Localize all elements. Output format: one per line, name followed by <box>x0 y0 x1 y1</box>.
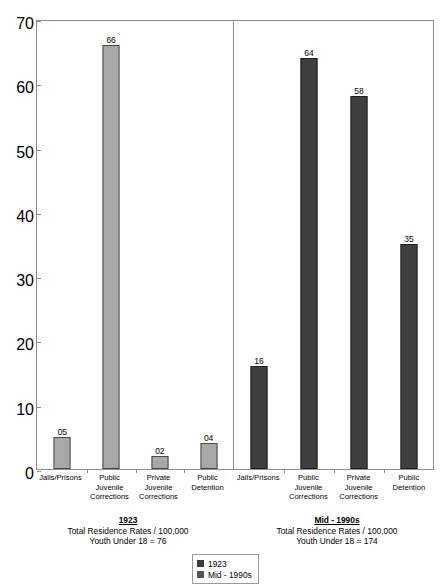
x-axis-category-label: PrivateJuvenileCorrections <box>334 473 384 502</box>
x-axis-category-label-line: Jails/Prisons <box>233 473 283 483</box>
legend-item: Mid - 1990s <box>197 569 252 580</box>
caption-line-2: Youth Under 18 = 174 <box>233 536 441 547</box>
bar-slot: 58 <box>334 21 384 469</box>
x-axis-category-label: Jails/Prisons <box>36 473 85 483</box>
legend: 1923 Mid - 1990s <box>192 554 259 584</box>
caption-line-2: Youth Under 18 = 76 <box>24 536 232 547</box>
bar-value-label: 02 <box>155 446 164 456</box>
legend-swatch-icon <box>197 560 204 567</box>
bar[interactable] <box>103 45 120 469</box>
bar[interactable] <box>200 443 217 469</box>
caption-line-1: Total Residence Rates / 100,000 <box>233 526 441 537</box>
caption-1923: 1923 Total Residence Rates / 100,000 You… <box>24 515 232 547</box>
x-axis-category-label-line: Corrections <box>334 492 384 502</box>
bar-slot: 64 <box>284 21 334 469</box>
bar[interactable] <box>151 456 168 469</box>
x-axis-category-label-line: Jails/Prisons <box>36 473 85 483</box>
caption-line-1: Total Residence Rates / 100,000 <box>24 526 232 537</box>
x-axis-category-label: PublicDetention <box>183 473 232 492</box>
bar-value-label: 66 <box>106 35 115 45</box>
bar[interactable] <box>251 366 268 469</box>
bar-value-label: 05 <box>58 427 67 437</box>
bar-slot: 04 <box>184 21 233 469</box>
x-axis-category-label-line: Public Juvenile <box>85 473 134 492</box>
caption-mid-1990s: Mid - 1990s Total Residence Rates / 100,… <box>233 515 441 547</box>
legend-item: 1923 <box>197 558 252 569</box>
x-axis-category-label-line: Juvenile <box>134 483 183 493</box>
bar-value-label: 35 <box>404 234 413 244</box>
x-axis-labels-1923: Jails/PrisonsPublic JuvenileCorrectionsP… <box>36 473 232 513</box>
bar-slot: 35 <box>384 21 434 469</box>
y-axis-tick-mark <box>37 471 41 472</box>
bar-chart: 05660204 16645835 010203040506070 Jails/… <box>0 0 443 588</box>
x-axis-category-label-line: Private <box>134 473 183 483</box>
x-axis-category-label: PrivateJuvenileCorrections <box>134 473 183 502</box>
x-axis-category-label-line: Public <box>183 473 232 483</box>
bar[interactable] <box>351 96 368 469</box>
legend-label: Mid - 1990s <box>208 570 252 580</box>
x-axis-category-label-line: Private <box>334 473 384 483</box>
x-axis-category-label: Public JuvenileCorrections <box>85 473 134 502</box>
y-axis-tick-labels: 010203040506070 <box>0 0 34 490</box>
x-axis-category-label-line: Juvenile <box>334 483 384 493</box>
plot-area: 05660204 16645835 <box>36 20 434 470</box>
x-axis-category-label-line: Detention <box>183 483 232 493</box>
x-axis-category-label-line: Corrections <box>134 492 183 502</box>
y-axis-tick-label: 0 <box>4 465 34 483</box>
bar[interactable] <box>401 244 418 469</box>
legend-swatch-icon <box>197 571 204 578</box>
panel-1923-bars: 05660204 <box>38 21 233 469</box>
x-axis-category-label: PublicDetention <box>384 473 434 492</box>
y-axis-tick-label: 50 <box>4 144 34 162</box>
bar-slot: 05 <box>38 21 87 469</box>
bar-value-label: 64 <box>304 48 313 58</box>
x-axis-category-label: Jails/Prisons <box>233 473 283 483</box>
bar-value-label: 04 <box>204 433 213 443</box>
x-axis-labels-mid-1990s: Jails/PrisonsPublic JuvenileCorrectionsP… <box>233 473 434 513</box>
caption-title: 1923 <box>24 515 232 526</box>
x-axis-category-label: Public JuvenileCorrections <box>283 473 333 502</box>
y-axis-tick-label: 60 <box>4 79 34 97</box>
bar-slot: 02 <box>136 21 185 469</box>
x-axis-category-label-line: Corrections <box>85 492 134 502</box>
bar[interactable] <box>54 437 71 469</box>
y-axis-tick-label: 20 <box>4 336 34 354</box>
y-axis-tick-label: 30 <box>4 272 34 290</box>
bar-value-label: 58 <box>354 86 363 96</box>
x-axis-category-label-line: Public Juvenile <box>283 473 333 492</box>
panel-mid-1990s-bars: 16645835 <box>234 21 434 469</box>
y-axis-tick-label: 70 <box>4 15 34 33</box>
bar[interactable] <box>301 58 318 469</box>
x-axis-category-label-line: Corrections <box>283 492 333 502</box>
y-axis-tick-label: 10 <box>4 401 34 419</box>
x-axis-category-label-line: Public <box>384 473 434 483</box>
bar-value-label: 16 <box>254 356 263 366</box>
x-axis-category-label-line: Detention <box>384 483 434 493</box>
legend-label: 1923 <box>208 559 227 569</box>
caption-title: Mid - 1990s <box>233 515 441 526</box>
bar-slot: 66 <box>87 21 136 469</box>
bar-slot: 16 <box>234 21 284 469</box>
y-axis-tick-label: 40 <box>4 208 34 226</box>
